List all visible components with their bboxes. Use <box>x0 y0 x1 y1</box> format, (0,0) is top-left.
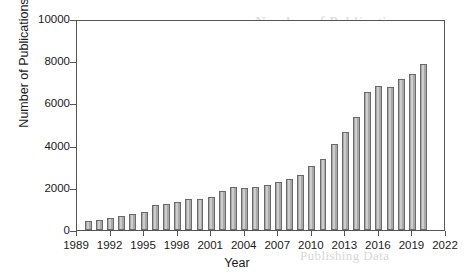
bar <box>241 188 248 230</box>
y-tick-label: 0 <box>18 225 70 237</box>
bar <box>387 87 394 230</box>
bar <box>409 74 416 230</box>
bar <box>308 166 315 230</box>
bar <box>286 179 293 230</box>
bar <box>364 92 371 230</box>
bar-series <box>77 21 444 230</box>
x-tick <box>378 231 379 236</box>
x-tick <box>110 231 111 236</box>
plot-area <box>76 20 445 231</box>
bar <box>342 132 349 230</box>
bar <box>163 204 170 230</box>
y-tick-label: 8000 <box>18 56 70 68</box>
x-tick <box>143 231 144 236</box>
x-tick <box>311 231 312 236</box>
bar <box>297 175 304 230</box>
x-tick <box>244 231 245 236</box>
x-tick <box>76 231 77 236</box>
x-tick <box>277 231 278 236</box>
x-tick <box>411 231 412 236</box>
bar <box>420 64 427 230</box>
x-tick <box>445 231 446 236</box>
y-tick-label: 4000 <box>18 141 70 153</box>
bar <box>230 187 237 230</box>
y-tick-label: 10000 <box>18 14 70 26</box>
bar <box>331 144 338 230</box>
bar <box>252 187 259 230</box>
bar <box>152 205 159 230</box>
x-tick-label: 2022 <box>425 239 465 251</box>
bar <box>398 79 405 230</box>
x-tick <box>210 231 211 236</box>
bar <box>118 216 125 230</box>
x-tick <box>177 231 178 236</box>
bar <box>96 220 103 230</box>
y-tick-label: 2000 <box>18 183 70 195</box>
bar <box>275 182 282 230</box>
bar <box>129 214 136 230</box>
bar <box>208 197 215 230</box>
bar <box>107 218 114 230</box>
bar <box>85 221 92 230</box>
x-axis-title: Year <box>0 256 474 270</box>
y-tick-label: 6000 <box>18 98 70 110</box>
bar <box>353 117 360 230</box>
bar <box>375 86 382 230</box>
bar <box>219 191 226 230</box>
bar <box>320 159 327 230</box>
bar <box>174 202 181 230</box>
bar <box>264 185 271 230</box>
bar <box>197 199 204 230</box>
bar-chart: Number of Publications Annual Research O… <box>0 0 474 280</box>
bar <box>141 212 148 230</box>
bar <box>185 199 192 230</box>
x-tick <box>344 231 345 236</box>
